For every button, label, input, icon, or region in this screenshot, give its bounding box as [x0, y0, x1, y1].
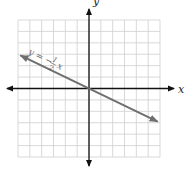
y-axis-label: y	[92, 0, 100, 8]
equation-suffix: x	[56, 61, 65, 72]
x-axis-label: x	[178, 83, 185, 96]
labels-layer: xyy = −12x	[24, 0, 185, 96]
coordinate-plane: xyy = −12x	[0, 0, 189, 169]
axes	[7, 9, 174, 166]
